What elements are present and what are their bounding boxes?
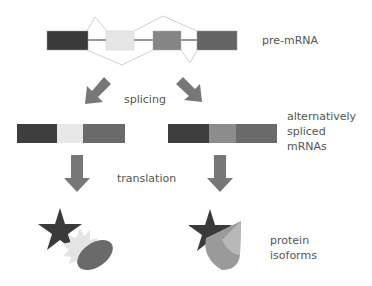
exon-2 — [106, 31, 134, 50]
exon-1 — [168, 124, 209, 143]
translation-arrow-left — [64, 155, 90, 192]
protein-isoform-1 — [38, 208, 118, 276]
translation-arrow-right — [207, 155, 233, 192]
protein-line-2: isoforms — [270, 248, 317, 263]
splicing-label: splicing — [124, 92, 166, 107]
alternatively-spliced-mrnas-label: alternatively spliced mRNAs — [287, 109, 356, 154]
mrna-isoform-2 — [168, 124, 277, 143]
exon-3 — [153, 31, 181, 50]
protein-isoforms-label: protein isoforms — [270, 233, 317, 263]
splicing-arrow-right — [176, 77, 202, 102]
exon-3 — [209, 124, 236, 143]
protein-line-1: protein — [270, 233, 317, 248]
pre-mrna-label: pre-mRNA — [262, 33, 318, 48]
exon-4 — [83, 124, 125, 143]
protein-isoform-2 — [188, 209, 241, 270]
alt-spliced-line-1: alternatively — [287, 109, 356, 124]
exon-2 — [57, 124, 83, 143]
alt-spliced-line-3: mRNAs — [287, 139, 356, 154]
splicing-arrow-left — [85, 77, 111, 104]
exon-4 — [236, 124, 277, 143]
translation-label: translation — [117, 171, 176, 186]
exon-1 — [47, 31, 88, 50]
mrna-isoform-1 — [17, 124, 125, 143]
exon-4 — [197, 31, 237, 50]
exon-1 — [17, 124, 57, 143]
alt-spliced-line-2: spliced — [287, 124, 356, 139]
